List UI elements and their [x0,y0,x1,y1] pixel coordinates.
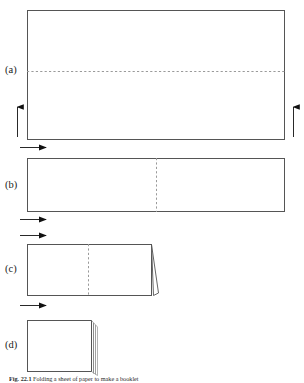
panel-label-a: (a) [5,65,17,76]
panel-a-graphic [18,11,294,140]
panel-c-open-flap [152,245,159,296]
panel-c-graphic [20,236,159,306]
panel-label-c: (c) [5,264,17,275]
figure-caption-number: Fig. 22.1 [9,375,32,382]
figure-container: (a) (b) (c) (d) Fig. 22.1 Folding a shee… [0,0,304,383]
figure-caption-text: Folding a sheet of paper to make a bookl… [33,375,139,382]
panel-label-b: (b) [5,180,17,191]
panel-d-graphic [28,321,98,376]
panel-d-page-edge-top-connector [92,321,98,328]
panel-d-booklet-outline [28,321,92,372]
panel-c-sheet-outline [28,245,152,296]
panel-label-d: (d) [5,340,17,351]
folding-diagram [0,0,304,383]
figure-caption: Fig. 22.1 Folding a sheet of paper to ma… [9,375,301,382]
panel-b-graphic [20,148,285,220]
panel-a-sheet-outline [28,11,285,140]
